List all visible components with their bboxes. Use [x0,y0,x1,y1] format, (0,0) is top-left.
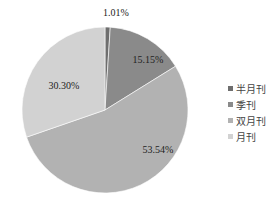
slice-label: 53.54% [143,144,174,155]
legend-item: 季刊 [228,96,266,112]
legend: 半月刊 季刊 双月刊 月刊 [228,80,266,144]
legend-swatch [228,118,233,123]
legend-item: 双月刊 [228,112,266,128]
slice-label: 1.01% [103,7,129,18]
legend-label: 月刊 [236,129,256,144]
slice-label: 30.30% [49,80,80,91]
legend-item: 半月刊 [228,80,266,96]
legend-swatch [228,102,233,107]
legend-label: 季刊 [236,97,256,112]
legend-label: 双月刊 [236,113,266,128]
pie-slices [22,27,188,193]
legend-swatch [228,134,233,139]
slice-label: 15.15% [133,54,164,65]
legend-label: 半月刊 [236,81,266,96]
legend-swatch [228,86,233,91]
legend-item: 月刊 [228,128,266,144]
